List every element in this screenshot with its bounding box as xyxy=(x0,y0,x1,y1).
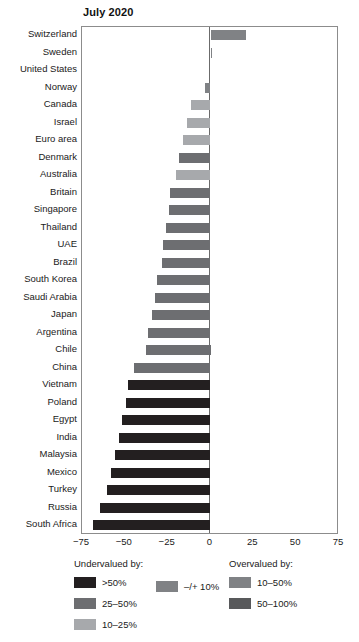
bar xyxy=(211,48,213,58)
bar-row xyxy=(82,272,337,288)
bar-row xyxy=(82,447,337,463)
legend-label: 25–50% xyxy=(102,598,137,609)
bar xyxy=(122,415,210,425)
legend-group-overvalued: Overvalued by: 10–50%50–100% xyxy=(229,558,297,616)
bar-row xyxy=(82,115,337,131)
bar xyxy=(119,433,211,443)
x-tick-label: 25 xyxy=(247,536,258,547)
legend-item: –/+ 10% xyxy=(156,578,219,594)
bar xyxy=(179,153,211,163)
bar xyxy=(126,398,211,408)
legend-swatch-icon xyxy=(229,598,251,609)
bar xyxy=(152,310,210,320)
bar-row xyxy=(82,500,337,516)
x-tick-label: −50 xyxy=(116,536,132,547)
category-label: India xyxy=(0,429,77,445)
category-label: Britain xyxy=(0,184,77,200)
bar-row xyxy=(82,167,337,183)
category-label: Israel xyxy=(0,114,77,130)
x-tick-label: −75 xyxy=(73,536,89,547)
bar-row xyxy=(82,342,337,358)
category-label: China xyxy=(0,359,77,375)
category-label: United States xyxy=(0,61,77,77)
legend-label: 10–25% xyxy=(102,619,137,630)
category-label: Argentina xyxy=(0,324,77,340)
legend-group-undervalued: Undervalued by: >50%25–50%10–25% xyxy=(74,558,143,637)
bar xyxy=(155,293,211,303)
legend-item: 25–50% xyxy=(74,595,143,611)
chart-title: July 2020 xyxy=(83,6,133,18)
bar xyxy=(176,170,210,180)
category-label: Switzerland xyxy=(0,26,77,42)
bar xyxy=(187,118,211,128)
big-mac-index-chart: July 2020 SwitzerlandSwedenUnited States… xyxy=(0,0,359,642)
bar xyxy=(111,468,210,478)
category-label: Singapore xyxy=(0,201,77,217)
bar-row xyxy=(82,482,337,498)
bar xyxy=(157,275,210,285)
bar xyxy=(166,223,211,233)
bar xyxy=(191,100,211,110)
bar-row xyxy=(82,290,337,306)
legend-group-neutral: –/+ 10% xyxy=(156,578,219,599)
x-tick-label: 50 xyxy=(290,536,301,547)
category-label: Saudi Arabia xyxy=(0,289,77,305)
bar xyxy=(148,328,211,338)
bar-row xyxy=(82,517,337,533)
category-label: Russia xyxy=(0,499,77,515)
bar-row xyxy=(82,430,337,446)
category-label: South Korea xyxy=(0,271,77,287)
bar-row xyxy=(82,45,337,61)
bar xyxy=(205,83,211,93)
legend-swatch-icon xyxy=(229,577,251,588)
x-tick-label: 0 xyxy=(207,536,212,547)
bar xyxy=(107,485,211,495)
legend-heading-undervalued: Undervalued by: xyxy=(74,558,143,569)
legend-label: 50–100% xyxy=(257,598,297,609)
category-label: Sweden xyxy=(0,44,77,60)
bar-row xyxy=(82,465,337,481)
bar-row xyxy=(82,80,337,96)
category-label: Egypt xyxy=(0,411,77,427)
bar-row xyxy=(82,132,337,148)
category-label: Denmark xyxy=(0,149,77,165)
legend-label: –/+ 10% xyxy=(184,581,219,592)
category-label: Poland xyxy=(0,394,77,410)
bar xyxy=(100,503,211,513)
category-label: Malaysia xyxy=(0,446,77,462)
category-label: Australia xyxy=(0,166,77,182)
category-label: Chile xyxy=(0,341,77,357)
legend-label: >50% xyxy=(102,577,127,588)
category-label: Canada xyxy=(0,96,77,112)
category-label: UAE xyxy=(0,236,77,252)
x-tick-label: 75 xyxy=(333,536,344,547)
category-label: Mexico xyxy=(0,464,77,480)
bar-row xyxy=(82,395,337,411)
bar-row xyxy=(82,325,337,341)
bar xyxy=(115,450,211,460)
category-label: Euro area xyxy=(0,131,77,147)
bar xyxy=(134,363,210,373)
category-label: Norway xyxy=(0,79,77,95)
bar xyxy=(93,520,210,530)
legend-label: 10–50% xyxy=(257,577,292,588)
bar-row xyxy=(82,202,337,218)
bar-row xyxy=(82,377,337,393)
bar-row xyxy=(82,255,337,271)
category-label: Japan xyxy=(0,306,77,322)
bar-row xyxy=(82,27,337,43)
bar-row xyxy=(82,150,337,166)
x-axis-ticks: −75−50−250255075 xyxy=(81,536,338,552)
bar xyxy=(170,188,210,198)
legend-swatch-icon xyxy=(74,577,96,588)
bar xyxy=(183,135,210,145)
bar xyxy=(128,380,210,390)
bar-row xyxy=(82,220,337,236)
chart-legend: Undervalued by: >50%25–50%10–25% –/+ 10%… xyxy=(0,558,359,638)
bar-row xyxy=(82,97,337,113)
bar-row xyxy=(82,307,337,323)
plot-area xyxy=(81,26,338,534)
legend-item: 10–50% xyxy=(229,574,297,590)
legend-item: >50% xyxy=(74,574,143,590)
bar xyxy=(146,345,210,355)
